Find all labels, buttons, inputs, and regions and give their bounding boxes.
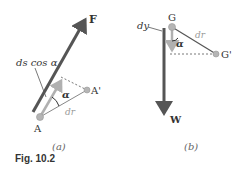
point-label-a-prime: A' — [90, 85, 101, 96]
projection-vector-a — [40, 81, 61, 117]
panel-label-a: (a) — [52, 141, 66, 152]
figure-caption: Fig. 10.2 — [15, 153, 55, 164]
angle-label-a: α — [62, 89, 70, 100]
panel-a: F ds cos α α dr A A' (a) — [16, 13, 101, 152]
point-a — [37, 114, 44, 121]
point-g-prime — [213, 51, 219, 57]
angle-arc-a — [52, 97, 59, 106]
projection-label: ds cos α — [16, 57, 58, 68]
point-label-g-prime: G' — [221, 49, 232, 60]
panel-b: G dy dr α G' W (b) — [137, 12, 232, 152]
point-label-g: G — [168, 12, 176, 23]
weight-label-w: W — [169, 114, 182, 125]
angle-label-b: α — [176, 38, 184, 49]
panel-label-b: (b) — [184, 141, 198, 152]
point-a-prime — [84, 87, 90, 93]
point-g — [169, 24, 176, 31]
leader-line-ds — [35, 68, 46, 97]
displacement-label-a: dr — [65, 107, 76, 117]
leader-line-dy — [148, 27, 162, 31]
vertical-label-dy: dy — [137, 20, 149, 31]
force-label-f: F — [89, 13, 97, 26]
figure-canvas: F ds cos α α dr A A' (a) G dy dr α G' W … — [0, 0, 247, 179]
displacement-label-b: dr — [195, 30, 206, 40]
point-label-a: A — [33, 123, 42, 134]
